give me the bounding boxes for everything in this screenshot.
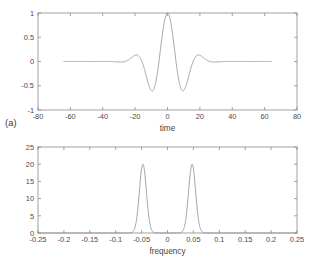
- x-tick-label: 0.05: [186, 235, 200, 244]
- panel-a-time-domain: -80-60-40-20020406080-1-0.500.51time (a): [0, 0, 317, 140]
- y-tick-label: 10: [26, 194, 34, 203]
- x-tick-label: 0.25: [290, 235, 304, 244]
- x-tick-label: 0.1: [214, 235, 224, 244]
- x-tick-label: 0.15: [238, 235, 252, 244]
- x-tick-label: -0.2: [58, 235, 71, 244]
- y-tick-label: 0: [30, 57, 34, 66]
- figure-container: -80-60-40-20020406080-1-0.500.51time (a)…: [0, 0, 317, 274]
- x-tick-label: -60: [65, 112, 76, 121]
- x-tick-label: 60: [261, 112, 269, 121]
- data-curve: [38, 164, 297, 233]
- panel-b-frequency-domain: -0.25-0.2-0.15-0.1-0.0500.050.10.150.20.…: [0, 134, 317, 274]
- x-tick-label: -0.05: [133, 235, 150, 244]
- panel-tag-a: (a): [5, 117, 17, 128]
- x-tick-label: 0: [165, 112, 169, 121]
- y-tick-label: 1: [30, 9, 34, 18]
- y-tick-label: 0: [30, 229, 34, 238]
- y-tick-label: 25: [26, 143, 34, 152]
- y-tick-label: 20: [26, 160, 34, 169]
- y-tick-label: 5: [30, 212, 34, 221]
- data-curve: [64, 13, 271, 91]
- x-tick-label: 0: [165, 235, 169, 244]
- x-axis-title: frequency: [150, 247, 187, 256]
- plot-frame: [38, 147, 297, 233]
- plot-a-svg: -80-60-40-20020406080-1-0.500.51time: [0, 0, 317, 140]
- x-tick-label: -0.1: [109, 235, 122, 244]
- x-tick-label: 80: [293, 112, 301, 121]
- x-tick-label: 0.2: [266, 235, 276, 244]
- y-tick-label: 0.5: [24, 33, 34, 42]
- x-tick-label: 20: [196, 112, 204, 121]
- x-tick-label: -80: [33, 112, 44, 121]
- x-axis-title: time: [160, 124, 176, 133]
- plot-b-svg: -0.25-0.2-0.15-0.1-0.0500.050.10.150.20.…: [0, 134, 317, 274]
- y-tick-label: 15: [26, 177, 34, 186]
- y-tick-label: -0.5: [21, 81, 34, 90]
- x-tick-label: -20: [130, 112, 141, 121]
- x-tick-label: -40: [97, 112, 108, 121]
- y-tick-label: -1: [27, 106, 34, 115]
- x-tick-label: -0.15: [81, 235, 98, 244]
- x-tick-label: 40: [228, 112, 236, 121]
